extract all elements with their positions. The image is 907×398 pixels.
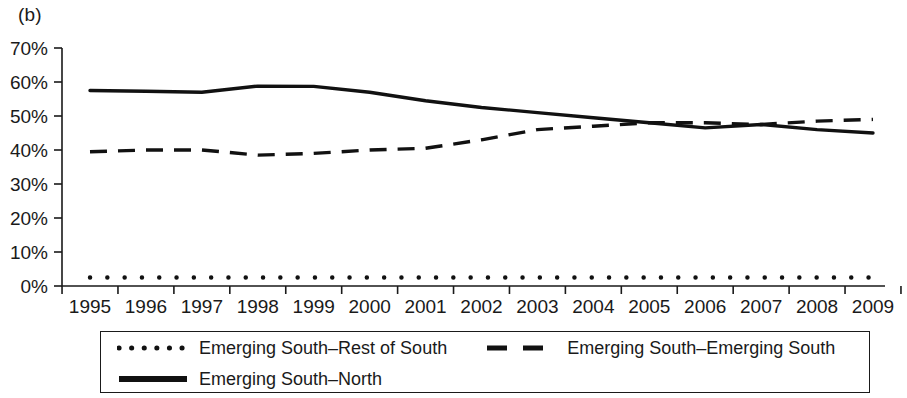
x-tick-label: 2006 [684, 296, 726, 317]
legend-label-2: Emerging South–North [199, 370, 382, 388]
y-tick-label: 30% [10, 174, 48, 195]
y-axis-ticks: 0%10%20%30%40%50%60%70% [10, 38, 62, 297]
legend: Emerging South–Rest of South Emerging So… [100, 331, 870, 393]
x-tick-label: 2004 [572, 296, 615, 317]
series-line-emerging-south-north [90, 86, 873, 133]
x-tick-label: 1996 [125, 296, 167, 317]
legend-key-dotted-icon [117, 340, 189, 356]
legend-row-2: Emerging South–North [101, 363, 869, 394]
legend-label-0: Emerging South–Rest of South [199, 339, 447, 357]
panel-label: (b) [18, 4, 42, 26]
plot-area: 0%10%20%30%40%50%60%70% 1995199619971998… [0, 28, 907, 318]
x-tick-label: 1999 [293, 296, 335, 317]
x-tick-label: 1997 [181, 296, 223, 317]
legend-entry-emerging-south-emerging-south: Emerging South–Emerging South [485, 332, 835, 363]
x-tick-label: 1998 [237, 296, 279, 317]
x-tick-label: 2007 [740, 296, 782, 317]
x-tick-label: 2008 [796, 296, 838, 317]
legend-key-solid-icon [117, 371, 189, 387]
x-tick-label: 2001 [404, 296, 446, 317]
y-tick-label: 50% [10, 106, 48, 127]
y-tick-label: 40% [10, 140, 48, 161]
x-axis-ticks: 1995199619971998199920002001200220032004… [62, 286, 901, 317]
legend-label-1: Emerging South–Emerging South [567, 339, 835, 357]
line-chart-svg: 0%10%20%30%40%50%60%70% 1995199619971998… [0, 28, 907, 318]
x-tick-label: 2002 [460, 296, 502, 317]
figure-panel-b: (b) 0%10%20%30%40%50%60%70% 199519961997… [0, 0, 907, 398]
x-tick-label: 2009 [852, 296, 894, 317]
y-tick-label: 70% [10, 38, 48, 59]
y-tick-label: 60% [10, 72, 48, 93]
y-tick-label: 0% [21, 276, 49, 297]
x-tick-label: 2000 [349, 296, 391, 317]
legend-entry-emerging-south-north: Emerging South–North [117, 363, 382, 394]
y-tick-label: 20% [10, 208, 48, 229]
x-tick-label: 2005 [628, 296, 670, 317]
axis-lines [62, 48, 885, 286]
legend-entry-emerging-south-rest-of-south: Emerging South–Rest of South [117, 332, 447, 363]
x-tick-label: 1995 [69, 296, 111, 317]
legend-row-1: Emerging South–Rest of South Emerging So… [101, 332, 869, 363]
y-tick-label: 10% [10, 242, 48, 263]
x-tick-label: 2003 [516, 296, 558, 317]
legend-key-dashed-icon [485, 340, 557, 356]
